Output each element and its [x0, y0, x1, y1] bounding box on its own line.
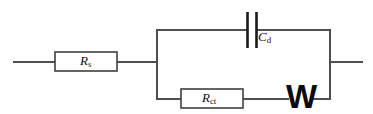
capacitor-cd-label: Cd [258, 30, 271, 43]
warburg-element-symbol: W [283, 81, 319, 113]
resistor-rct-label: Rct [202, 91, 216, 104]
resistor-rs-label: Rs [80, 54, 91, 67]
equivalent-circuit-diagram: Rs Rct Cd W [0, 0, 373, 114]
